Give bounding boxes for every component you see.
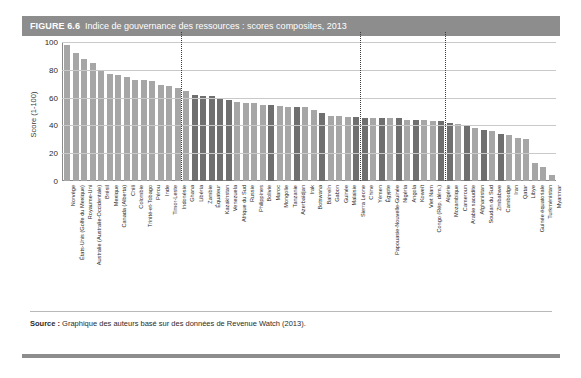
bar-slot [242, 42, 251, 181]
bar-slot [157, 42, 166, 181]
category-label-slot: États-Unis (Golfe du Mexique) [72, 183, 81, 295]
bar-series [63, 42, 556, 181]
bar-slot [369, 42, 378, 181]
category-label-slot: Azerbaïdjan [293, 183, 302, 295]
category-label-slot: Ghana [182, 183, 191, 295]
category-label-slot: Mexique [106, 183, 115, 295]
figure-header: FIGURE 6.6 Indice de gouvernance des res… [22, 16, 560, 36]
bar [404, 120, 410, 181]
y-tick-label: 0 [38, 177, 58, 186]
bar [183, 91, 189, 181]
bar-slot [395, 42, 404, 181]
bar-slot [344, 42, 353, 181]
bar-slot [276, 42, 285, 181]
bar-slot [505, 42, 514, 181]
bar [489, 131, 495, 181]
category-label-slot: Irak [301, 183, 310, 295]
y-tick-label: 100 [38, 38, 58, 47]
bar [345, 117, 351, 181]
bar [243, 103, 249, 181]
bar-slot [514, 42, 523, 181]
category-divider [445, 32, 446, 181]
bar [251, 103, 257, 181]
category-label-slot: Soudan du Sud [480, 183, 489, 295]
category-label-slot: Russie [242, 183, 251, 295]
bar-slot [531, 42, 540, 181]
bar [277, 106, 283, 181]
category-divider [181, 32, 182, 181]
bar [132, 80, 138, 181]
category-label-slot: Sierra Leone [353, 183, 362, 295]
category-label: Myanmar [556, 185, 562, 208]
category-label-slot: Royaume-Uni [80, 183, 89, 295]
bar [217, 98, 223, 181]
bar [472, 128, 478, 181]
figure-card: FIGURE 6.6 Indice de gouvernance des res… [22, 16, 560, 360]
figure-footer-band [22, 354, 560, 358]
bar-slot [488, 42, 497, 181]
bar [515, 138, 521, 181]
category-label-slot: Norvège [63, 183, 72, 295]
bar [540, 167, 546, 181]
category-label-slot: Malaisie [344, 183, 353, 295]
category-label-slot: Afghanistan [472, 183, 481, 295]
source-text: Graphique des auteurs basé sur des donné… [62, 319, 306, 328]
bar [396, 118, 402, 181]
category-label-slot: Qatar [514, 183, 523, 295]
bar-slot [412, 42, 421, 181]
category-label-slot: Koweït [412, 183, 421, 295]
bar [294, 107, 300, 181]
bar-slot [208, 42, 217, 181]
category-label-slot: Colombie [131, 183, 140, 295]
bar [353, 117, 359, 181]
bar [362, 118, 368, 181]
bar-slot [225, 42, 234, 181]
category-label-slot: Cambodge [497, 183, 506, 295]
category-label-slot: Afrique du Sud [233, 183, 242, 295]
category-label-slot: Pérou [148, 183, 157, 295]
y-tick-label: 60 [38, 93, 58, 102]
source-divider [30, 311, 552, 312]
bar [175, 88, 181, 181]
category-label-slot: Congo (Rép. dém.) [429, 183, 438, 295]
category-label-slot: Bahreïn [318, 183, 327, 295]
bar [387, 118, 393, 181]
category-label-slot: Yémen [370, 183, 379, 295]
bar-slot [454, 42, 463, 181]
bar-slot [522, 42, 531, 181]
bar-slot [233, 42, 242, 181]
bar [124, 77, 130, 181]
bar [64, 45, 70, 181]
category-label-slot: Maroc [267, 183, 276, 295]
category-label-slot: Chine [361, 183, 370, 295]
bar [268, 105, 274, 181]
bar-slot [216, 42, 225, 181]
category-label-slot: Mongolie [276, 183, 285, 295]
category-label-slot: Timor-Leste [165, 183, 174, 295]
bar [302, 107, 308, 181]
bar [481, 130, 487, 181]
x-axis-category-labels: NorvègeÉtats-Unis (Golfe du Mexique)Roya… [63, 183, 557, 295]
bar-slot [165, 42, 174, 181]
category-label-slot: Iran [506, 183, 515, 295]
bar [523, 139, 529, 181]
bar-slot [386, 42, 395, 181]
bar [285, 107, 291, 181]
category-label-slot: Canada (Alberta) [114, 183, 123, 295]
category-label-slot: Australie (Australie-Occidentale) [89, 183, 98, 295]
figure-number: FIGURE 6.6 [30, 21, 80, 31]
category-label-slot: Gabon [327, 183, 336, 295]
source-label: Source : [30, 319, 60, 328]
category-label-slot: Turkménistan [540, 183, 549, 295]
bar-slot [191, 42, 200, 181]
category-label-slot: Tanzanie [284, 183, 293, 295]
category-divider [360, 32, 361, 181]
bar [311, 110, 317, 181]
category-label-slot: Botswana [310, 183, 319, 295]
bar-slot [446, 42, 455, 181]
gridline [62, 70, 556, 71]
category-label-slot: Mozambique [446, 183, 455, 295]
bar-slot [327, 42, 336, 181]
bar-slot [106, 42, 115, 181]
bar-slot [539, 42, 548, 181]
